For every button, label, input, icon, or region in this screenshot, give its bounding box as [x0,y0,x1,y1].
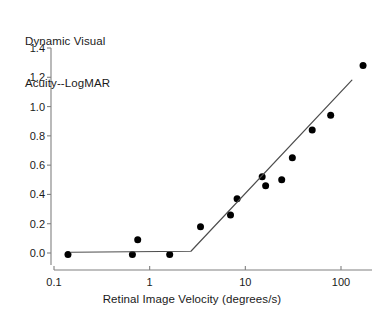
y-tick-label: 1.4 [8,42,45,54]
x-tick-label: 10 [239,276,251,288]
x-axis-title: Retinal Image Velocity (degrees/s) [0,293,384,305]
y-tick-label: 0.2 [8,218,45,230]
x-tick-label: 100 [332,276,350,288]
fit-line [71,80,352,252]
y-tick-label: 1.0 [8,101,45,113]
chart-figure: Dynamic Visual Acuity--LogMAR 0.00.20.40… [0,0,384,325]
data-point [289,154,296,161]
y-tick-label: 1.2 [8,71,45,83]
data-point [278,176,285,183]
data-point [309,127,316,134]
data-point [259,173,266,180]
y-tick-label: 0.8 [8,130,45,142]
x-tick-label: 1 [147,276,153,288]
data-point [262,182,269,189]
data-point [197,223,204,230]
y-tick-label: 0.0 [8,247,45,259]
y-tick-label: 0.4 [8,188,45,200]
y-tick-label: 0.6 [8,159,45,171]
data-point [360,62,367,69]
data-point [327,112,334,119]
x-tick-label: 0.1 [46,276,61,288]
data-point [134,236,141,243]
